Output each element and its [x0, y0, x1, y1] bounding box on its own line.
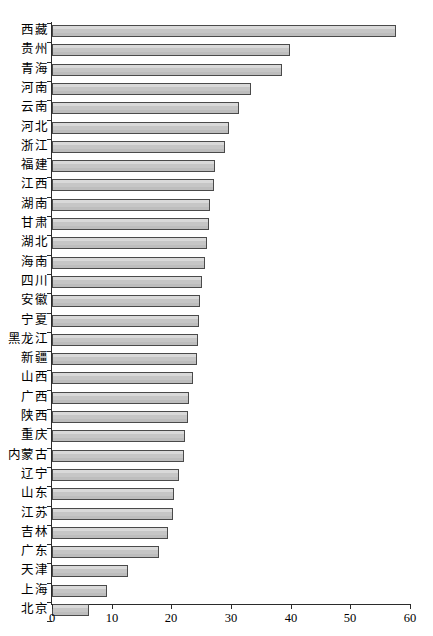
bar-row: [52, 427, 410, 446]
bar-row: [52, 562, 410, 581]
bar-row: [52, 447, 410, 466]
bar: [52, 411, 188, 423]
bar-row: [52, 350, 410, 369]
bar-row: [52, 505, 410, 524]
horizontal-bar-chart: 西藏贵州青海河南云南河北浙江福建江西湖南甘肃湖北海南四川安徽宁夏黑龙江新疆山西广…: [0, 0, 433, 636]
x-tick-label: 30: [211, 611, 251, 625]
category-label: 江西: [0, 178, 48, 191]
bar-row: [52, 466, 410, 485]
bar-row: [52, 524, 410, 543]
x-tick: [112, 604, 113, 609]
x-tick: [291, 604, 292, 609]
bar: [52, 44, 290, 56]
x-tick-label: 50: [330, 611, 370, 625]
category-label: 广西: [0, 391, 48, 404]
bar: [52, 102, 239, 114]
bar: [52, 430, 185, 442]
bar-row: [52, 312, 410, 331]
bar: [52, 257, 205, 269]
bar: [52, 546, 159, 558]
category-label: 天津: [0, 564, 48, 577]
bar-row: [52, 485, 410, 504]
x-tick-label: 20: [151, 611, 191, 625]
plot-area: [52, 22, 410, 604]
category-label: 山东: [0, 487, 48, 500]
bar: [52, 25, 396, 37]
bar: [52, 565, 128, 577]
category-label: 湖北: [0, 236, 48, 249]
bar-row: [52, 254, 410, 273]
category-label: 青海: [0, 63, 48, 76]
bar: [52, 315, 199, 327]
bar-row: [52, 80, 410, 99]
category-label: 江苏: [0, 507, 48, 520]
bar-row: [52, 234, 410, 253]
x-tick: [410, 604, 411, 609]
category-label: 黑龙江: [0, 333, 48, 346]
category-label: 四川: [0, 275, 48, 288]
bar: [52, 160, 215, 172]
x-tick-label: 0: [32, 611, 72, 625]
bar-row: [52, 138, 410, 157]
bar-row: [52, 292, 410, 311]
bar-row: [52, 408, 410, 427]
category-label: 福建: [0, 159, 48, 172]
bar: [52, 199, 210, 211]
category-label: 新疆: [0, 352, 48, 365]
category-label: 上海: [0, 584, 48, 597]
category-label: 重庆: [0, 429, 48, 442]
x-tick-label: 10: [92, 611, 132, 625]
bar: [52, 469, 179, 481]
x-tick: [231, 604, 232, 609]
category-label: 贵州: [0, 43, 48, 56]
x-tick: [350, 604, 351, 609]
bar-row: [52, 196, 410, 215]
bar: [52, 122, 229, 134]
x-tick: [52, 604, 53, 609]
bar-row: [52, 543, 410, 562]
category-label: 内蒙古: [0, 449, 48, 462]
bar: [52, 353, 197, 365]
bar: [52, 179, 214, 191]
bar: [52, 237, 207, 249]
bar-row: [52, 369, 410, 388]
bar: [52, 372, 193, 384]
x-tick: [171, 604, 172, 609]
bar: [52, 585, 107, 597]
category-label: 辽宁: [0, 468, 48, 481]
bar-row: [52, 176, 410, 195]
bar: [52, 141, 225, 153]
category-label: 湖南: [0, 198, 48, 211]
bar: [52, 83, 251, 95]
bar: [52, 392, 189, 404]
bar-row: [52, 119, 410, 138]
bar-row: [52, 389, 410, 408]
category-label: 海南: [0, 256, 48, 269]
category-label: 浙江: [0, 140, 48, 153]
bar: [52, 527, 168, 539]
x-tick-label: 60: [390, 611, 430, 625]
category-label: 陕西: [0, 410, 48, 423]
category-label: 山西: [0, 371, 48, 384]
category-label: 吉林: [0, 526, 48, 539]
bar: [52, 450, 184, 462]
bar-row: [52, 331, 410, 350]
bar: [52, 334, 198, 346]
bar-row: [52, 22, 410, 41]
bar-row: [52, 582, 410, 601]
bar: [52, 218, 209, 230]
bar-row: [52, 41, 410, 60]
bar-row: [52, 215, 410, 234]
bar-row: [52, 99, 410, 118]
category-label: 云南: [0, 101, 48, 114]
category-label: 河南: [0, 82, 48, 95]
bar: [52, 508, 173, 520]
category-label: 河北: [0, 121, 48, 134]
bar: [52, 276, 202, 288]
category-label: 广东: [0, 545, 48, 558]
category-label: 宁夏: [0, 314, 48, 327]
category-label: 甘肃: [0, 217, 48, 230]
x-tick-label: 40: [271, 611, 311, 625]
bar: [52, 295, 200, 307]
bar-row: [52, 273, 410, 292]
